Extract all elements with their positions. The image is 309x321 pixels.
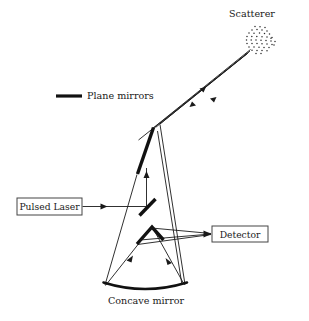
optics-ray-diagram: Scatterer Plane mirrors Pulsed Laser Det… bbox=[0, 0, 309, 321]
detector-beam-arrowhead bbox=[204, 231, 212, 238]
beam-vertical-up bbox=[144, 168, 150, 207]
concave-mirror bbox=[104, 283, 188, 290]
plane-mirror-small bbox=[140, 199, 156, 216]
vertical-beam-arrowhead bbox=[144, 171, 150, 178]
beam-laser-input bbox=[83, 204, 149, 210]
beam-bundle-scatterer bbox=[139, 50, 251, 141]
detector-box[interactable] bbox=[212, 226, 268, 242]
pulsed-laser-box[interactable] bbox=[17, 198, 82, 215]
beam-arrowheads-concave bbox=[127, 256, 173, 266]
laser-beam-arrowhead bbox=[101, 204, 108, 210]
